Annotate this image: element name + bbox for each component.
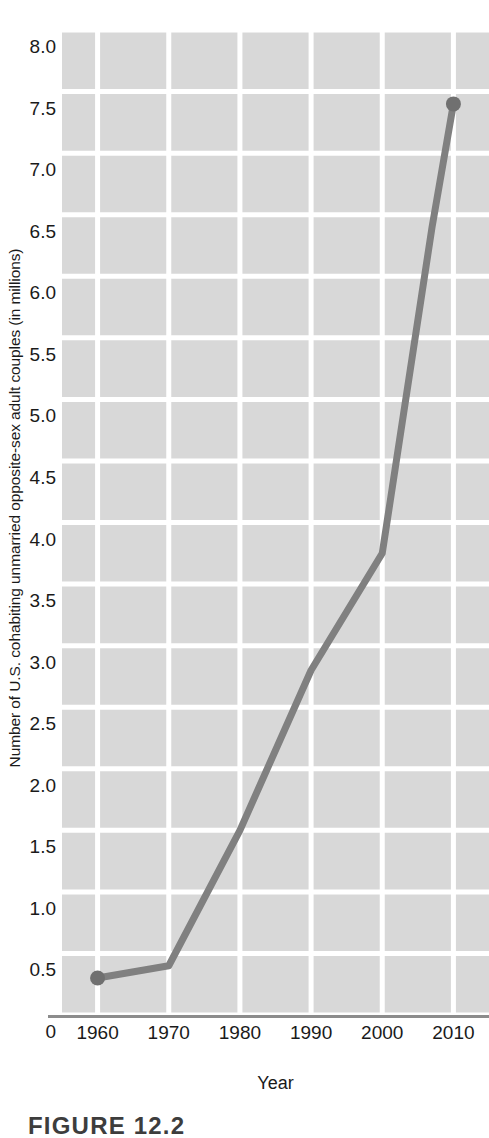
plot-area bbox=[62, 30, 489, 1015]
y-axis-tick-label: 3.5 bbox=[0, 591, 56, 610]
y-axis-tick-label: 3.0 bbox=[0, 652, 56, 671]
x-axis-tick-label: 2000 bbox=[347, 1023, 417, 1042]
y-axis-tick-label: 6.0 bbox=[0, 283, 56, 302]
data-point-marker bbox=[446, 96, 461, 111]
y-axis-tick-label: 7.5 bbox=[0, 98, 56, 117]
y-axis-tick-label: 5.5 bbox=[0, 344, 56, 363]
y-axis-tick-label: 8.0 bbox=[0, 37, 56, 56]
y-axis-tick-label: 4.0 bbox=[0, 529, 56, 548]
figure-caption: FIGURE 12.2 bbox=[28, 1112, 185, 1138]
x-axis-tick-label: 1960 bbox=[63, 1023, 133, 1042]
y-axis-tick-label: 0.5 bbox=[0, 960, 56, 979]
y-axis-title-label: Number of U.S. cohabiting unmarried oppo… bbox=[6, 248, 24, 767]
x-axis-tick-label: 1980 bbox=[205, 1023, 275, 1042]
data-point-marker bbox=[90, 971, 105, 986]
y-axis-tick-label: 5.0 bbox=[0, 406, 56, 425]
y-axis-tick-label: 2.5 bbox=[0, 714, 56, 733]
y-axis-tick-label: 4.5 bbox=[0, 467, 56, 486]
x-axis-rule bbox=[48, 1015, 489, 1018]
x-axis-tick-label: 1990 bbox=[276, 1023, 346, 1042]
y-axis-tick-label: 1.0 bbox=[0, 898, 56, 917]
y-axis-tick-label: 7.0 bbox=[0, 160, 56, 179]
x-axis-tick-label: 1970 bbox=[134, 1023, 204, 1042]
data-line-series bbox=[62, 30, 489, 1015]
x-axis-title: Year bbox=[62, 1073, 489, 1094]
y-axis-tick-label: 0 bbox=[0, 1022, 56, 1041]
y-axis-tick-label: 1.5 bbox=[0, 837, 56, 856]
y-axis-tick-label: 2.0 bbox=[0, 775, 56, 794]
data-line bbox=[98, 104, 454, 978]
y-axis-title: Number of U.S. cohabiting unmarried oppo… bbox=[0, 0, 30, 1015]
y-axis-tick-label: 6.5 bbox=[0, 221, 56, 240]
x-axis-tick-label: 2010 bbox=[418, 1023, 488, 1042]
